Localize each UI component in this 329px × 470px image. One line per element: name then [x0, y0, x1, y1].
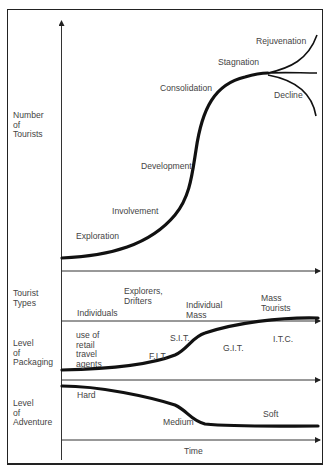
- type-mass-tourists: Mass Tourists: [261, 294, 291, 313]
- stage-consolidation: Consolidation: [160, 84, 212, 94]
- type-individual-mass: Individual Mass: [186, 301, 222, 320]
- packaging-itc: I.T.C.: [273, 335, 293, 345]
- packaging-sit: S.I.T.: [170, 334, 190, 344]
- type-explorers-drifters: Explorers, Drifters: [124, 287, 163, 306]
- stage-decline: Decline: [274, 91, 303, 101]
- label-level-of-adventure: Level of Adventure: [13, 399, 52, 428]
- stage-involvement: Involvement: [112, 207, 158, 217]
- stage-rejuvenation: Rejuvenation: [256, 37, 306, 47]
- packaging-fit: F.I.T.: [149, 352, 167, 362]
- packaging-git: G.I.T.: [223, 344, 244, 354]
- label-tourist-types: Tourist Types: [13, 289, 38, 308]
- label-number-of-tourists: Number of Tourists: [13, 111, 44, 140]
- stage-stagnation: Stagnation: [218, 58, 259, 68]
- label-level-of-packaging: Level of Packaging: [13, 339, 53, 368]
- adventure-soft: Soft: [263, 410, 278, 420]
- stage-development: Development: [141, 162, 192, 172]
- x-axis-label-time: Time: [184, 447, 203, 457]
- type-individuals: Individuals: [77, 309, 118, 319]
- packaging-retail-agents: use of retail travel agents: [76, 331, 102, 369]
- adventure-hard: Hard: [77, 391, 96, 401]
- stage-exploration: Exploration: [76, 232, 119, 242]
- adventure-medium: Medium: [163, 418, 194, 428]
